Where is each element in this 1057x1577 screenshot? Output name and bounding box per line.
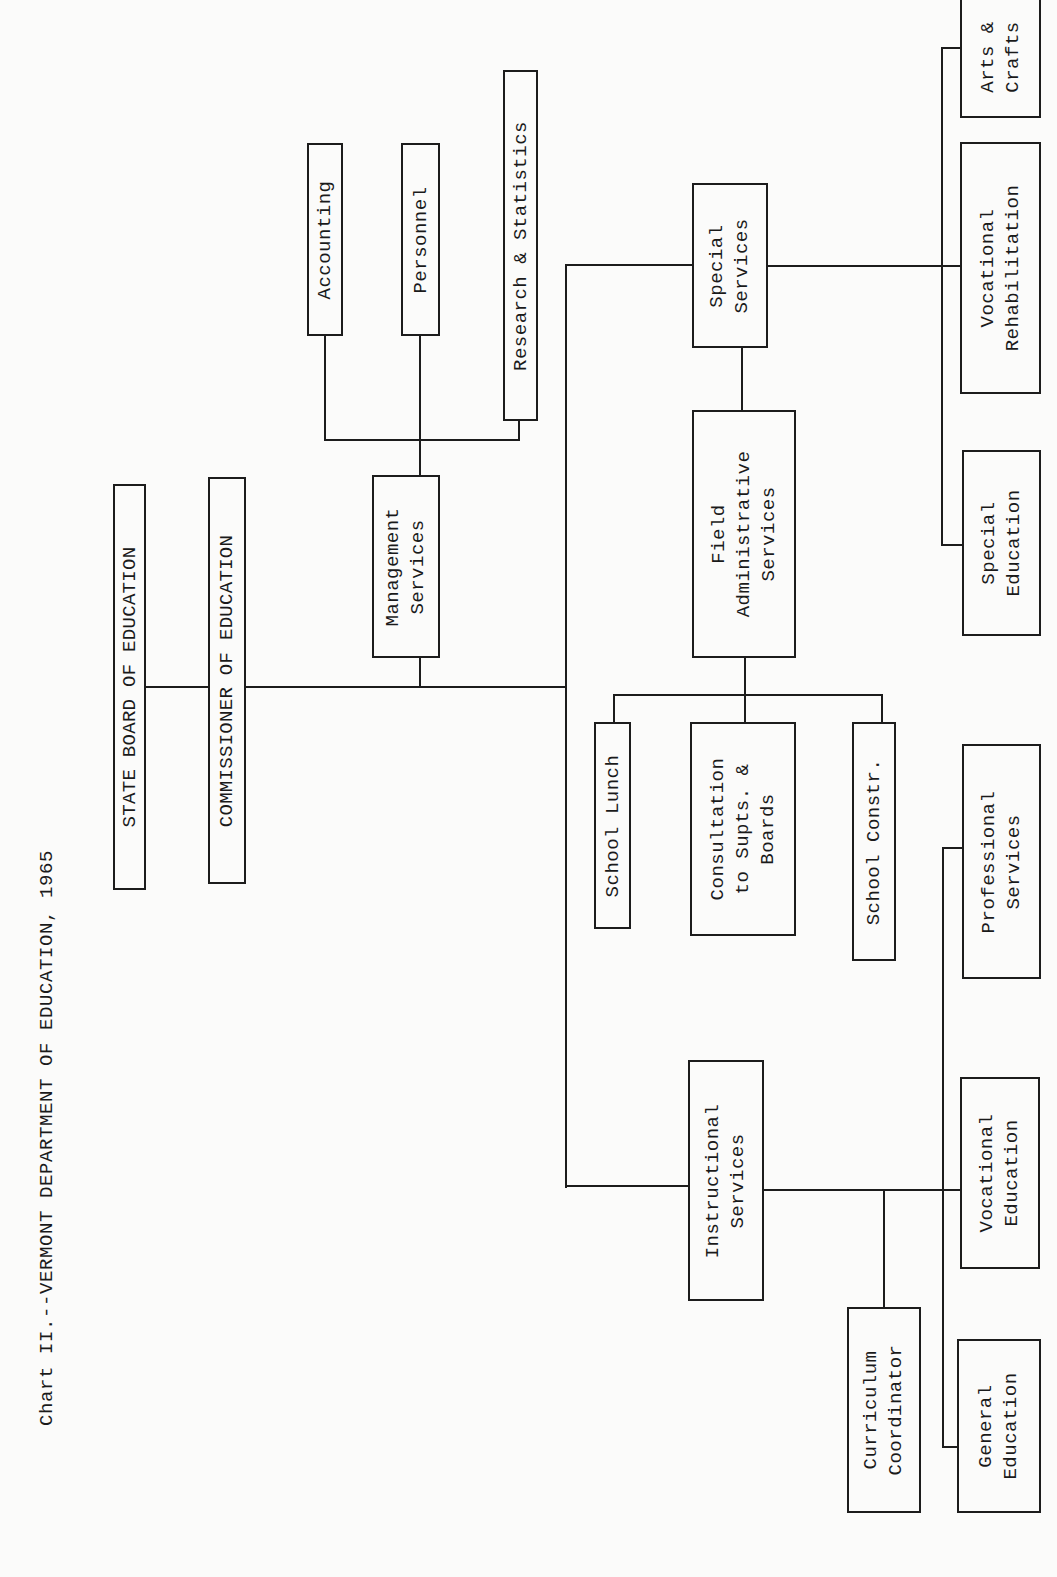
connector-school-constr	[881, 694, 883, 723]
connector-instructional-vertical	[942, 847, 944, 1447]
node-label: Special Education	[977, 489, 1027, 596]
connector-instructional	[565, 1185, 689, 1187]
node-label: Professional Services	[977, 790, 1027, 933]
chart-title: Chart II.--VERMONT DEPARTMENT OF EDUCATI…	[36, 850, 58, 1426]
node-state-board: STATE BOARD OF EDUCATION	[113, 484, 146, 890]
connector-personnel	[419, 335, 421, 440]
connector-school-lunch	[613, 694, 615, 723]
node-vocational-rehabilitation: Vocational Rehabilitation	[960, 142, 1041, 394]
node-label: Instructional Services	[701, 1103, 751, 1258]
node-commissioner: COMMISSIONER OF EDUCATION	[208, 477, 246, 884]
node-label: COMMISSIONER OF EDUCATION	[215, 534, 240, 827]
node-school-lunch: School Lunch	[594, 722, 631, 929]
node-general-education: General Education	[957, 1339, 1041, 1513]
connector-special-field	[741, 347, 743, 411]
node-management-services: Management Services	[372, 475, 440, 658]
connector-accounting	[324, 335, 326, 440]
node-personnel: Personnel	[401, 143, 440, 336]
connector-instructional-right	[763, 1189, 961, 1191]
connector-consultation	[744, 694, 746, 723]
node-curriculum-coordinator: Curriculum Coordinator	[847, 1307, 921, 1513]
node-label: Special Services	[705, 218, 755, 313]
node-instructional-services: Instructional Services	[688, 1060, 764, 1301]
connector-field-stem	[744, 657, 746, 695]
connector-professional	[942, 847, 963, 849]
node-label: Field Administrative Services	[707, 451, 782, 618]
node-vocational-education: Vocational Education	[960, 1077, 1040, 1269]
connector-trunk	[565, 264, 567, 1188]
node-label: Accounting	[313, 180, 338, 299]
connector-curriculum	[883, 1189, 885, 1308]
node-accounting: Accounting	[307, 143, 343, 336]
connector-management-bus	[324, 439, 520, 441]
connector-management-up	[419, 440, 421, 476]
node-field-administrative-services: Field Administrative Services	[692, 410, 796, 658]
node-label: School Constr.	[862, 758, 887, 925]
connector-special-right	[767, 265, 961, 267]
node-label: School Lunch	[600, 754, 625, 897]
node-special-education: Special Education	[962, 450, 1041, 636]
node-label: STATE BOARD OF EDUCATION	[117, 547, 142, 828]
connector-general-ed	[942, 1446, 958, 1448]
node-consultation: Consultation to Supts. & Boards	[690, 722, 796, 936]
connector-management-stem	[419, 657, 421, 687]
connector-special-services	[565, 264, 693, 266]
node-special-services: Special Services	[692, 183, 768, 348]
node-label: General Education	[974, 1372, 1024, 1479]
connector-special-vertical	[941, 47, 943, 545]
node-label: Vocational Education	[975, 1113, 1025, 1232]
connector-special-ed	[941, 544, 963, 546]
node-professional-services: Professional Services	[962, 744, 1041, 979]
node-label: Vocational Rehabilitation	[976, 185, 1026, 352]
node-label: Personnel	[408, 186, 433, 293]
node-research-statistics: Research & Statistics	[503, 70, 538, 421]
node-label: Curriculum Coordinator	[859, 1345, 909, 1476]
node-label: Research & Statistics	[508, 121, 533, 371]
node-label: Management Services	[381, 507, 431, 626]
connector-research	[518, 420, 520, 440]
connector-arts-crafts	[941, 47, 961, 49]
node-label: Arts & Crafts	[976, 21, 1026, 92]
node-label: Consultation to Supts. & Boards	[706, 758, 781, 901]
node-school-constr: School Constr.	[852, 722, 896, 961]
node-arts-crafts: Arts & Crafts	[960, 0, 1041, 118]
connector-field-bus	[613, 694, 883, 696]
